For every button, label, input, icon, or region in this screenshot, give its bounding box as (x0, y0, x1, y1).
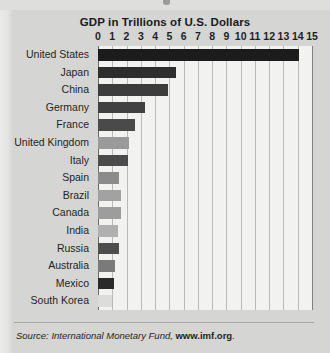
x-tick-label-15: 15 (302, 30, 322, 42)
bar-china (98, 84, 168, 96)
bar-row (98, 240, 312, 258)
page-spine-mark (163, 0, 170, 5)
bar-row (98, 116, 312, 134)
x-axis-tick-labels: 0123456789101112131415 (98, 30, 312, 44)
y-label-china: China (0, 81, 93, 99)
bar-italy (98, 155, 128, 167)
chart-title: GDP in Trillions of U.S. Dollars (0, 16, 330, 28)
y-label-united-kingdom: United Kingdom (0, 134, 93, 152)
y-label-mexico: Mexico (0, 275, 93, 293)
bar-india (98, 225, 118, 237)
y-label-italy: Italy (0, 152, 93, 170)
bar-japan (98, 67, 176, 79)
y-label-japan: Japan (0, 64, 93, 82)
bar-russia (98, 243, 119, 255)
bar-row (98, 81, 312, 99)
bar-canada (98, 207, 121, 219)
y-label-france: France (0, 116, 93, 134)
bar-germany (98, 102, 145, 114)
bar-row (98, 204, 312, 222)
y-label-australia: Australia (0, 257, 93, 275)
y-label-spain: Spain (0, 169, 93, 187)
bar-spain (98, 172, 119, 184)
bar-row (98, 257, 312, 275)
y-label-south-korea: South Korea (0, 292, 93, 310)
bar-row (98, 46, 312, 64)
y-label-india: India (0, 222, 93, 240)
bar-row (98, 64, 312, 82)
y-label-russia: Russia (0, 240, 93, 258)
bar-row (98, 169, 312, 187)
gridline-15 (312, 46, 313, 310)
bar-row (98, 275, 312, 293)
bar-south-korea (98, 295, 112, 307)
source-note: Source: International Monetary Fund, www… (16, 330, 235, 341)
chart-page: GDP in Trillions of U.S. Dollars 0123456… (0, 0, 330, 353)
plot-area (98, 46, 313, 310)
bar-france (98, 119, 135, 131)
y-label-brazil: Brazil (0, 187, 93, 205)
source-prefix: Source: International Monetary Fund, (16, 330, 175, 341)
bar-united-states (98, 49, 299, 61)
source-url[interactable]: www.imf.org (175, 330, 232, 341)
bar-australia (98, 260, 115, 272)
bar-row (98, 187, 312, 205)
bar-united-kingdom (98, 137, 129, 149)
bar-row (98, 152, 312, 170)
bar-row (98, 292, 312, 310)
y-label-germany: Germany (0, 99, 93, 117)
bar-row (98, 99, 312, 117)
source-suffix: . (232, 330, 235, 341)
y-axis-category-labels: United StatesJapanChinaGermanyFranceUnit… (0, 46, 93, 310)
bar-mexico (98, 278, 114, 290)
y-label-canada: Canada (0, 204, 93, 222)
y-label-united-states: United States (0, 46, 93, 64)
bar-row (98, 134, 312, 152)
bar-brazil (98, 190, 121, 202)
bar-row (98, 222, 312, 240)
source-divider (14, 322, 314, 323)
